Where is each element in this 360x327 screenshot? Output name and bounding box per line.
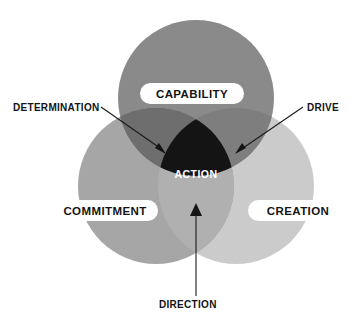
label-capability: CAPABILITY	[140, 83, 244, 104]
callout-label-drive: DRIVE	[307, 102, 339, 113]
venn-diagram-graphic	[0, 0, 360, 327]
label-action: ACTION	[168, 168, 224, 180]
label-commitment: COMMITMENT	[52, 200, 158, 221]
callout-label-direction: DIRECTION	[159, 299, 217, 310]
callout-label-determination: DETERMINATION	[13, 102, 100, 113]
label-creation: CREATION	[248, 200, 348, 221]
venn-diagram-canvas: CAPABILITY COMMITMENT CREATION ACTION DE…	[0, 0, 360, 327]
